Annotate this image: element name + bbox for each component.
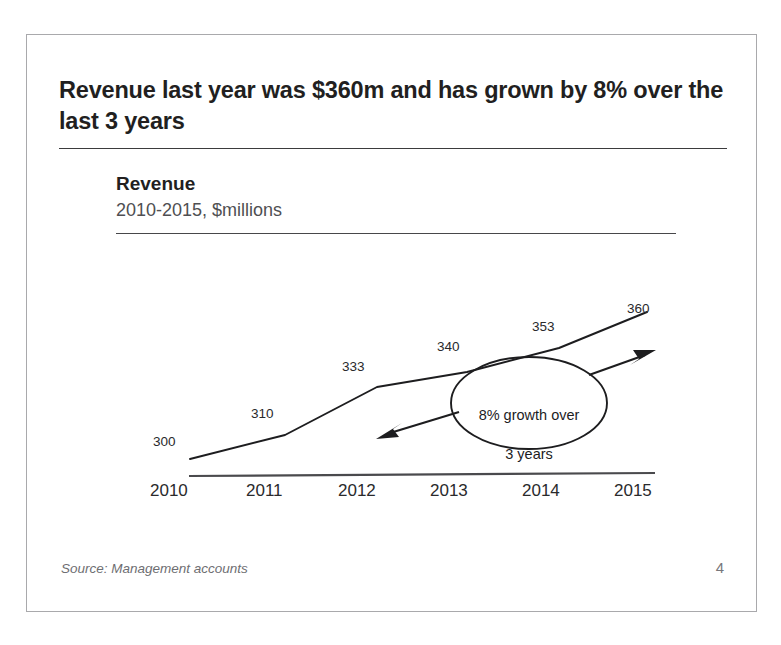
data-label-2014: 353	[532, 320, 555, 334]
callout-arrow-up-right-shaft	[589, 355, 645, 375]
exhibit-title: Revenue	[116, 172, 676, 196]
page-title: Revenue last year was $360m and has grow…	[59, 75, 727, 138]
data-label-2015: 360	[627, 302, 650, 316]
data-label-2010: 300	[153, 435, 176, 449]
exhibit-divider	[116, 233, 676, 234]
x-tick-2012: 2012	[338, 482, 376, 499]
x-tick-2011: 2011	[246, 482, 283, 499]
x-tick-2013: 2013	[430, 482, 468, 499]
data-label-2011: 310	[251, 407, 274, 421]
page-number: 4	[716, 559, 724, 576]
line-chart: 300 310 333 340 353 360 8% growth over 3…	[127, 260, 657, 475]
exhibit-header: Revenue 2010-2015, $millions	[116, 172, 676, 222]
title-divider	[59, 148, 727, 149]
exhibit-subtitle: 2010-2015, $millions	[116, 199, 676, 222]
source-note: Source: Management accounts	[61, 561, 248, 576]
callout-label: 8% growth over 3 years	[449, 386, 609, 484]
x-tick-2010: 2010	[150, 482, 188, 499]
callout-arrow-up-right-head	[630, 350, 656, 365]
callout-label-line2: 3 years	[449, 445, 609, 465]
data-label-2013: 340	[437, 340, 460, 354]
title-block: Revenue last year was $360m and has grow…	[59, 75, 727, 138]
data-label-2012: 333	[342, 360, 365, 374]
x-tick-2015: 2015	[614, 482, 652, 499]
slide-canvas: Revenue last year was $360m and has grow…	[26, 34, 757, 612]
callout-label-line1: 8% growth over	[449, 406, 609, 426]
x-tick-2014: 2014	[522, 482, 560, 499]
